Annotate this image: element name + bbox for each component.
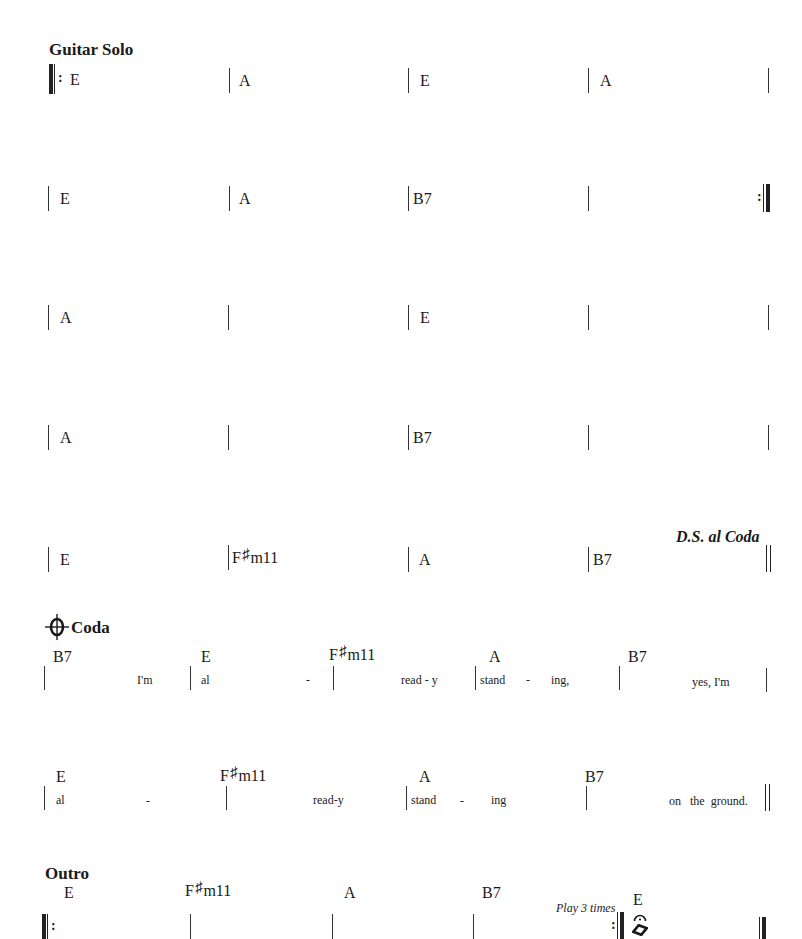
barline <box>588 68 589 93</box>
barline <box>588 425 589 450</box>
chord: E <box>56 769 66 785</box>
chord: A <box>60 430 72 446</box>
chord-fsharp-m11: F♯m11 <box>329 647 375 663</box>
barline <box>768 425 769 450</box>
chord: A <box>344 885 356 901</box>
lyric: stand <box>480 674 505 686</box>
lyric: ing <box>491 794 506 806</box>
barline <box>588 186 589 211</box>
barline <box>228 425 229 450</box>
repeat-start-barline: : <box>49 64 63 94</box>
lyric: - <box>460 795 464 807</box>
chord: E <box>420 310 430 326</box>
repeat-end-barline: : <box>757 184 771 212</box>
chord: B7 <box>482 885 501 901</box>
chord: E <box>201 649 211 665</box>
chord-fsharp-m11: F♯m11 <box>232 550 278 566</box>
barline <box>408 547 409 572</box>
chord: E <box>70 72 80 88</box>
barline <box>228 545 229 570</box>
lyric: al <box>56 794 65 806</box>
section-title-coda: Coda <box>71 618 110 638</box>
barline <box>228 305 229 330</box>
chord: E <box>420 73 430 89</box>
section-title-outro: Outro <box>45 864 89 884</box>
barline <box>333 666 334 690</box>
barline <box>619 666 620 690</box>
double-barline <box>765 784 771 811</box>
lyric: al <box>201 674 210 686</box>
chord-fsharp-m11: F♯m11 <box>220 767 266 785</box>
barline <box>48 547 49 572</box>
barline <box>406 786 407 810</box>
chord: E <box>60 191 70 207</box>
barline <box>768 68 769 93</box>
barline <box>48 186 49 211</box>
chord: A <box>60 310 72 326</box>
chord: B7 <box>413 430 432 446</box>
chord: B7 <box>593 552 612 568</box>
lyric: read-y <box>313 794 344 806</box>
lyric: yes, I'm <box>692 676 730 688</box>
lyric: - <box>306 674 310 686</box>
barline <box>48 305 49 330</box>
barline <box>48 425 49 450</box>
lyric: I'm <box>137 674 153 686</box>
fermata-icon <box>633 908 647 920</box>
lyric: - <box>146 795 150 807</box>
sharp-icon: ♯ <box>339 643 347 659</box>
sharp-icon: ♯ <box>195 879 203 895</box>
barline <box>190 914 191 939</box>
lyric: ing, <box>551 674 569 686</box>
chord: A <box>239 73 251 89</box>
barline <box>408 305 409 330</box>
play-3-times-instruction: Play 3 times <box>556 901 615 916</box>
barline <box>588 305 589 330</box>
chord: B7 <box>53 649 72 665</box>
chord: B7 <box>585 769 604 785</box>
chord: A <box>419 552 431 568</box>
repeat-end-barline: : <box>611 912 625 939</box>
chord: A <box>489 649 501 665</box>
barline <box>44 786 45 810</box>
coda-sign-icon <box>45 614 69 640</box>
diamond-note-icon <box>632 922 648 934</box>
chord: E <box>64 885 74 901</box>
barline <box>408 425 409 450</box>
barline <box>332 914 333 939</box>
barline <box>408 186 409 211</box>
chord: A <box>600 73 612 89</box>
barline <box>473 914 474 939</box>
barline <box>226 786 227 810</box>
chord: E <box>633 892 643 908</box>
sharp-icon: ♯ <box>230 764 238 780</box>
chord: E <box>60 552 70 568</box>
barline <box>768 305 769 330</box>
barline <box>229 68 230 93</box>
barline <box>190 666 191 690</box>
barline <box>229 186 230 211</box>
chord: A <box>239 191 251 207</box>
barline <box>588 547 589 572</box>
barline <box>586 786 587 810</box>
lyric: read - y <box>401 674 438 686</box>
lyric: stand <box>411 794 436 806</box>
sharp-icon: ♯ <box>242 546 250 562</box>
chord: B7 <box>628 649 647 665</box>
section-title-guitar-solo: Guitar Solo <box>49 40 133 60</box>
direction-ds-al-coda: D.S. al Coda <box>676 528 760 546</box>
double-barline <box>766 545 772 572</box>
lyric: - <box>526 674 530 686</box>
chord: A <box>419 769 431 785</box>
lyric: on the ground. <box>669 795 748 807</box>
repeat-start-barline: : <box>42 914 56 939</box>
barline <box>408 68 409 93</box>
barline <box>44 666 45 690</box>
chord: B7 <box>413 191 432 207</box>
chord-fsharp-m11: F♯m11 <box>185 883 231 899</box>
barline <box>766 668 767 692</box>
final-barline <box>759 917 765 939</box>
barline <box>475 666 476 690</box>
